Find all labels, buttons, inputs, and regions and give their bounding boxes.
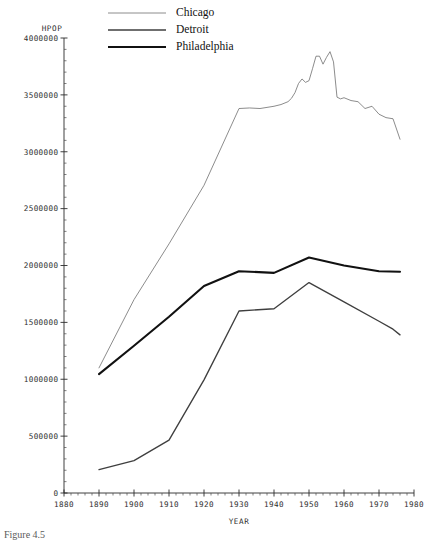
figure-caption: Figure 4.5 (4, 529, 45, 540)
y-axis-tick-label: 1000000 (24, 375, 59, 384)
x-axis-tick-label: 1880 (54, 500, 74, 509)
series-line-philadelphia (99, 258, 400, 375)
x-axis-tick-label: 1890 (89, 500, 109, 509)
x-axis-tick-label: 1940 (264, 500, 284, 509)
x-axis-tick-label: 1900 (124, 500, 144, 509)
x-axis-title: YEAR (229, 517, 250, 526)
x-axis-tick-label: 1950 (299, 500, 319, 509)
y-axis-tick-label: 2500000 (24, 204, 59, 213)
legend-entry-philadelphia: Philadelphia (108, 40, 234, 53)
x-axis-tick-label: 1960 (334, 500, 354, 509)
x-axis-tick-label: 1910 (159, 500, 179, 509)
y-axis-title: HPOP (42, 24, 63, 33)
x-axis-tick-label: 1970 (369, 500, 389, 509)
legend-label-philadelphia: Philadelphia (176, 40, 234, 53)
x-axis-tick-label: 1980 (404, 500, 424, 509)
series-line-detroit (99, 283, 400, 470)
y-axis-tick-label: 3500000 (24, 91, 59, 100)
y-axis-tick-label: 500000 (29, 432, 59, 441)
x-axis-tick-label: 1920 (194, 500, 214, 509)
y-axis-tick-label: 3000000 (24, 148, 59, 157)
legend-entry-detroit: Detroit (108, 23, 209, 35)
legend-label-chicago: Chicago (176, 6, 215, 19)
x-axis-tick-label: 1930 (229, 500, 249, 509)
legend-label-detroit: Detroit (176, 23, 209, 35)
y-axis-tick-label: 1500000 (24, 318, 59, 327)
y-axis-tick-label: 2000000 (24, 261, 59, 270)
series-line-chicago (99, 52, 400, 368)
y-axis-tick-label: 0 (54, 489, 59, 498)
y-axis-tick-label: 4000000 (24, 34, 59, 43)
legend-entry-chicago: Chicago (108, 6, 215, 19)
